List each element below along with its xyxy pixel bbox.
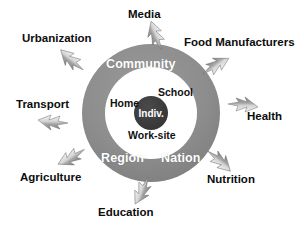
ring-label-nation: Nation — [161, 151, 201, 165]
influence-label-health: Health — [247, 110, 282, 122]
inner-label-home: Home — [110, 97, 139, 109]
influence-arrow-agriculture — [55, 143, 88, 172]
inner-label-work-site: Work-site — [128, 129, 176, 141]
arrow-shape — [38, 115, 68, 130]
arrow-shape — [55, 46, 88, 76]
influence-label-education: Education — [98, 206, 154, 218]
arrow-shape — [55, 143, 88, 172]
core-label-individual: Indiv. — [139, 108, 164, 119]
influence-arrow-transport — [38, 115, 68, 130]
influence-label-urbanization: Urbanization — [22, 32, 92, 44]
ring-label-community: Community — [106, 57, 176, 71]
ring-label-region: Region — [101, 151, 144, 165]
influence-diagram: CommunityRegionNation SchoolHomeWork-sit… — [0, 0, 304, 231]
influence-label-transport: Transport — [16, 98, 69, 110]
influence-label-food-manufacturers: Food Manufacturers — [184, 36, 295, 48]
influence-arrow-urbanization — [55, 46, 88, 76]
influence-label-nutrition: Nutrition — [207, 173, 255, 185]
influence-label-media: Media — [128, 8, 161, 20]
inner-label-school: School — [158, 86, 193, 98]
influence-label-agriculture: Agriculture — [20, 171, 81, 183]
